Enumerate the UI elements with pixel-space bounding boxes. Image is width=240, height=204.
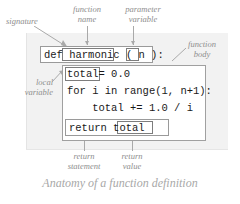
panel-bottom-edge	[26, 149, 228, 150]
annotation-function-name: function name	[67, 5, 107, 24]
code-line-for-loop: for i in range(1, n+1):	[67, 85, 212, 97]
leader-line-function-body	[172, 48, 188, 62]
function-anatomy-figure: signature function name parameter variab…	[0, 0, 240, 204]
arrow-down-icon-function-name	[85, 41, 89, 45]
code-line-increment: total += 1.0 / i	[67, 102, 193, 114]
leader-line-signature	[34, 26, 68, 48]
signature-code-line: def harmonic ( n ):	[44, 49, 164, 61]
annotation-parameter-variable: parameter variable	[121, 5, 165, 24]
figure-caption: Anatomy of a function definition	[0, 176, 240, 191]
arrow-down-icon-parameter-variable	[131, 41, 135, 45]
code-line-return: return total	[69, 122, 145, 134]
annotation-local-variable: local variable	[13, 78, 53, 97]
annotation-return-value: return value	[112, 152, 152, 171]
annotation-return-statement: return statement	[63, 152, 105, 171]
code-line-assignment: total= 0.0	[67, 68, 130, 80]
